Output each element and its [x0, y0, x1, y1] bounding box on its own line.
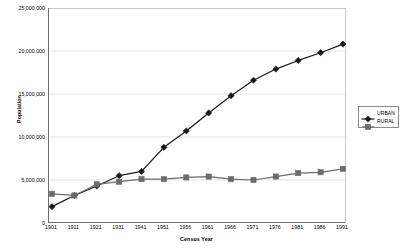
data-point-marker — [49, 204, 55, 210]
y-axis-tick-labels: 25,000,00020,000,00015,000,00010,000,000… — [0, 0, 45, 248]
legend-swatch-square-icon — [361, 117, 375, 125]
data-point-marker — [318, 170, 323, 175]
data-point-marker — [161, 177, 166, 182]
data-point-marker — [94, 182, 99, 187]
data-point-marker — [273, 174, 278, 179]
data-point-marker — [296, 171, 301, 176]
x-axis-title: Census Year — [48, 236, 345, 242]
y-axis-tick-label: 25,000,000 — [1, 5, 45, 11]
data-point-marker — [116, 173, 122, 179]
data-point-marker — [340, 166, 345, 171]
data-point-marker — [139, 177, 144, 182]
population-line-chart: Population 25,000,00020,000,00015,000,00… — [0, 0, 419, 248]
legend-swatch-diamond-icon — [361, 109, 375, 117]
plot-area — [48, 8, 345, 223]
data-point-marker — [72, 193, 77, 198]
data-point-marker — [206, 174, 211, 179]
data-point-marker — [49, 191, 54, 196]
legend-item-urban: URBAN — [361, 109, 395, 117]
x-axis-tick-label: 1991 — [329, 224, 355, 230]
legend-item-rural: RURAL — [361, 117, 395, 125]
y-axis-tick-label: 20,000,000 — [1, 48, 45, 54]
legend-label: RURAL — [377, 118, 394, 124]
series-urban — [49, 41, 346, 210]
y-axis-tick-label: 15,000,000 — [1, 91, 45, 97]
data-point-marker — [228, 177, 233, 182]
legend-label: URBAN — [377, 110, 395, 116]
plot-svg — [49, 8, 346, 223]
data-point-marker — [340, 41, 346, 47]
y-axis-tick-label: 5,000,000 — [1, 177, 45, 183]
data-point-marker — [184, 175, 189, 180]
chart-legend: URBANRURAL — [358, 106, 399, 128]
data-point-marker — [318, 50, 324, 56]
data-point-marker — [251, 177, 256, 182]
data-point-marker — [295, 57, 301, 63]
y-axis-tick-label: 10,000,000 — [1, 134, 45, 140]
data-point-marker — [365, 124, 370, 129]
data-point-marker — [273, 66, 279, 72]
series-rural — [49, 166, 345, 198]
x-axis-tick-labels: 1901191119211931194119511956196119661971… — [48, 224, 345, 236]
data-point-marker — [117, 179, 122, 184]
